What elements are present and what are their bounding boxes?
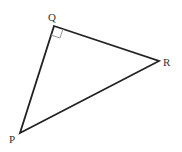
triangle-diagram: Q R P	[0, 0, 182, 152]
vertex-label-q: Q	[48, 11, 56, 23]
triangle-pqr	[20, 26, 159, 133]
vertex-label-p: P	[9, 133, 15, 145]
vertex-label-r: R	[163, 56, 171, 68]
